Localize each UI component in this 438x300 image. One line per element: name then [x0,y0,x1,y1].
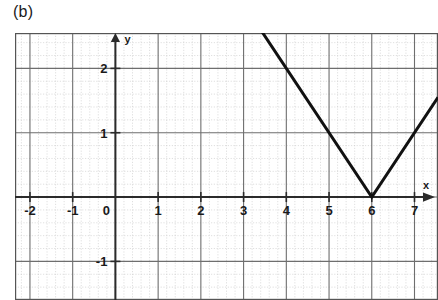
x-axis-label: x [423,179,430,191]
x-tick-label: 5 [325,203,332,218]
figure-root: (b) -2-101234567-112 xy [0,0,438,300]
x-tick-label: -1 [67,203,79,218]
panel-label: (b) [13,3,33,21]
plot-area: -2-101234567-112 xy [15,33,438,300]
x-tick-label: 4 [283,203,291,218]
y-axis-label: y [124,33,131,45]
x-tick-label: 2 [197,203,204,218]
x-tick-label: 0 [103,203,110,218]
x-tick-label: 7 [411,203,418,218]
x-tick-label: -2 [24,203,36,218]
y-tick-label: 1 [100,126,107,141]
y-tick-label: 2 [100,61,107,76]
x-tick-label: 1 [155,203,162,218]
x-tick-label: 6 [368,203,375,218]
coordinate-plot: -2-101234567-112 xy [15,33,438,300]
y-tick-label: -1 [96,254,108,269]
x-tick-label: 3 [240,203,247,218]
